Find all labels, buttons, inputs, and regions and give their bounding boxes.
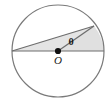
center-point-label: O [54, 54, 62, 66]
circle-diagram-svg: θ O [0, 0, 108, 104]
geometry-figure: θ O [0, 0, 108, 104]
angle-theta-label: θ [68, 36, 73, 47]
